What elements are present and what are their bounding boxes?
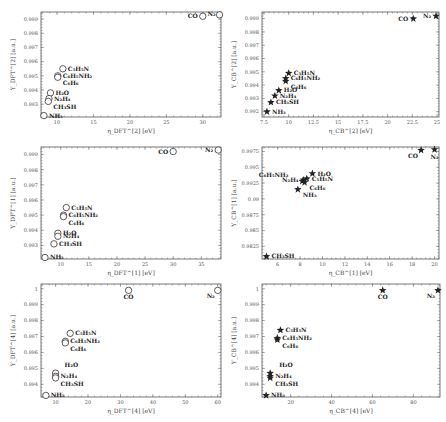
x-tick-label: 20 bbox=[85, 399, 91, 405]
data-point-label: C₆H₅NH₂ bbox=[70, 337, 100, 344]
data-point-label: N₂ bbox=[207, 292, 215, 299]
x-tick-label: 20 bbox=[384, 119, 390, 125]
y-tick-label: 0.996 bbox=[245, 349, 259, 355]
panel-bottom-left: 1020304050600.9940.9950.9960.9970.9980.9… bbox=[9, 284, 221, 415]
x-axis-label: η_DFT^[2] [eV] bbox=[107, 127, 155, 135]
data-point-label: N₂ bbox=[423, 12, 431, 19]
y-tick-label: 0.9875 bbox=[242, 212, 260, 218]
y-tick-label: 0.992 bbox=[245, 108, 259, 114]
data-point-label: NH₃ bbox=[272, 108, 286, 115]
data-point-circle-icon bbox=[215, 287, 221, 293]
x-tick-label: 25 bbox=[434, 119, 440, 125]
data-point-label: C₆H₅NH₂ bbox=[63, 72, 93, 79]
data-point-circle-icon bbox=[43, 392, 49, 398]
x-tick-label: 10 bbox=[319, 261, 325, 267]
y-tick-label: 0.9975 bbox=[242, 148, 260, 154]
data-point-label: N₂H₄ bbox=[282, 176, 299, 183]
data-point-circle-icon bbox=[45, 98, 51, 104]
y-tick-label: 0.999 bbox=[24, 16, 38, 22]
data-point-label: CH₃SH bbox=[61, 380, 84, 387]
x-axis-label: η_DFT^[4] [eV] bbox=[107, 407, 155, 415]
panel-middle-left: 1015202530350.9930.9940.9950.9960.9970.9… bbox=[9, 146, 221, 277]
y-tick-label: 0.995 bbox=[245, 365, 259, 371]
y-tick-label: 0.985 bbox=[245, 227, 259, 233]
y-tick-label: 0.998 bbox=[24, 167, 38, 173]
data-point-star-icon bbox=[274, 336, 282, 343]
x-tick-label: 80 bbox=[410, 399, 416, 405]
data-point-label: CH₃SH bbox=[276, 98, 299, 105]
data-point-circle-icon bbox=[60, 213, 66, 219]
x-tick-label: 18 bbox=[409, 261, 415, 267]
data-point-label: N₂H₄ bbox=[61, 372, 78, 379]
y-axis-label: Y_CB^[4] [a.u.] bbox=[230, 317, 238, 365]
x-tick-label: 15 bbox=[86, 261, 92, 267]
data-point-label: CO bbox=[158, 148, 168, 155]
x-tick-label: 16 bbox=[387, 261, 393, 267]
y-tick-label: 0.99 bbox=[248, 196, 259, 202]
x-axis-label: η_DFT^[1] [eV] bbox=[107, 269, 155, 277]
x-tick-label: 12.5 bbox=[308, 119, 319, 125]
y-tick-label: 0.995 bbox=[245, 69, 259, 75]
y-axis-label: Y_DFT^[1] [a.u.] bbox=[9, 177, 17, 229]
x-axis-label: η_CB^[1] [eV] bbox=[329, 269, 373, 277]
x-tick-label: 7.5 bbox=[260, 119, 268, 125]
data-point-circle-icon bbox=[200, 13, 206, 19]
data-point-label: NH₃ bbox=[50, 253, 64, 260]
data-point-label: CO bbox=[188, 12, 198, 19]
data-point-label: H₂O bbox=[279, 361, 293, 368]
x-tick-label: 60 bbox=[215, 399, 221, 405]
y-tick-label: 0.994 bbox=[24, 227, 38, 233]
y-tick-label: 0.996 bbox=[24, 58, 38, 64]
data-point-star-icon bbox=[262, 391, 270, 398]
data-point-star-icon bbox=[277, 326, 285, 333]
x-tick-label: 17.5 bbox=[357, 119, 368, 125]
data-point-label: C₅H₅N bbox=[68, 65, 90, 72]
y-tick-label: 0.993 bbox=[24, 101, 38, 107]
y-tick-label: 0.993 bbox=[245, 95, 259, 101]
y-tick-label: 0.999 bbox=[24, 151, 38, 157]
data-point-label: N₂H₄ bbox=[63, 232, 80, 239]
data-point-label: CH₃SH bbox=[53, 103, 76, 110]
data-point-circle-icon bbox=[42, 254, 48, 260]
data-point-circle-icon bbox=[52, 375, 58, 381]
x-tick-label: 35 bbox=[198, 261, 204, 267]
data-point-star-icon bbox=[266, 374, 274, 381]
x-tick-label: 10 bbox=[286, 119, 292, 125]
y-tick-label: 0.996 bbox=[24, 197, 38, 203]
y-tick-label: 0.997 bbox=[245, 42, 259, 48]
data-point-circle-icon bbox=[216, 12, 222, 18]
x-tick-label: 14 bbox=[364, 261, 370, 267]
y-tick-label: 0.993 bbox=[24, 242, 38, 248]
data-point-label: CO bbox=[124, 293, 134, 300]
figure-grid: 10152025300.9930.9940.9950.9960.9970.998… bbox=[0, 0, 446, 422]
data-point-label: CH₃SH bbox=[271, 252, 294, 259]
x-tick-label: 40 bbox=[150, 399, 156, 405]
panel-bottom-right: 204060800.9940.9950.9960.9970.9980.9991η… bbox=[230, 284, 442, 415]
x-tick-label: 20 bbox=[287, 399, 293, 405]
y-tick-label: 0.997 bbox=[24, 44, 38, 50]
x-tick-label: 10 bbox=[52, 399, 58, 405]
scatter-plots-svg: 10152025300.9930.9940.9950.9960.9970.998… bbox=[0, 0, 446, 422]
data-point-label: N₂ bbox=[430, 153, 438, 160]
data-point-label: C₆H₆ bbox=[63, 79, 79, 86]
x-tick-label: 50 bbox=[182, 399, 188, 405]
y-tick-label: 0.996 bbox=[24, 349, 38, 355]
data-point-label: C₅H₅N bbox=[285, 326, 307, 333]
data-point-label: NH₃ bbox=[51, 391, 65, 398]
x-tick-label: 20 bbox=[114, 261, 120, 267]
x-tick-label: 20 bbox=[127, 119, 133, 125]
data-point-label: C₅H₅N bbox=[75, 329, 97, 336]
y-tick-label: 1 bbox=[256, 286, 259, 292]
data-point-label: C₆H₅NH₂ bbox=[69, 211, 99, 218]
y-tick-label: 0.999 bbox=[245, 15, 259, 21]
y-tick-label: 0.995 bbox=[245, 164, 259, 170]
y-tick-label: 0.9925 bbox=[242, 180, 260, 186]
y-tick-label: 0.997 bbox=[245, 333, 259, 339]
x-tick-label: 15 bbox=[335, 119, 341, 125]
data-point-circle-icon bbox=[41, 112, 47, 118]
x-axis-label: η_CB^[4] [eV] bbox=[329, 407, 373, 415]
data-point-label: H₂O bbox=[65, 361, 79, 368]
y-tick-label: 0.9825 bbox=[242, 243, 260, 249]
data-point-circle-icon bbox=[170, 148, 176, 154]
x-tick-label: 25 bbox=[142, 261, 148, 267]
